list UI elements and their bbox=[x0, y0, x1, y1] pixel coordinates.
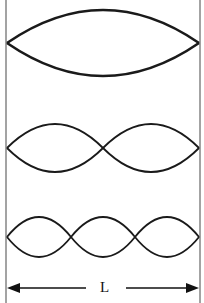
standing-wave-diagram bbox=[0, 0, 204, 303]
mode-3 bbox=[7, 217, 199, 257]
mode-2 bbox=[7, 124, 199, 172]
mode-1 bbox=[7, 10, 199, 76]
length-label: L bbox=[100, 279, 109, 296]
